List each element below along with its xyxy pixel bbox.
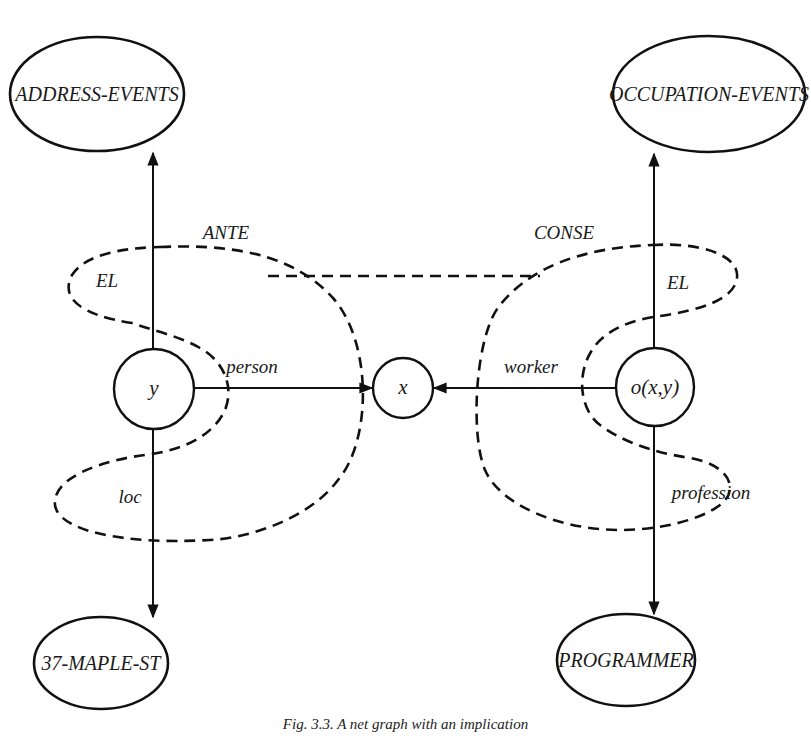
edge-loc-label: loc xyxy=(118,486,142,507)
node-y-label: y xyxy=(147,376,159,400)
conse-context-label: CONSE xyxy=(534,222,595,243)
edge-worker-label: worker xyxy=(504,356,558,377)
edge-el-left-label: EL xyxy=(95,270,118,291)
node-address-events: ADDRESS-EVENTS xyxy=(10,37,184,151)
ante-context-label: ANTE xyxy=(201,222,250,243)
node-x: x xyxy=(373,358,433,418)
node-o-xy-label: o(x,y) xyxy=(631,375,679,399)
semantic-net-diagram: ADDRESS-EVENTS OCCUPATION-EVENTS 37-MAPL… xyxy=(0,0,811,740)
node-y: y xyxy=(114,349,194,429)
node-37-maple-st-label: 37-MAPLE-ST xyxy=(41,652,163,674)
node-37-maple-st: 37-MAPLE-ST xyxy=(34,617,168,709)
node-o-xy: o(x,y) xyxy=(616,348,694,426)
edge-el-right-label: EL xyxy=(666,272,689,293)
edge-profession-label: profession xyxy=(670,482,750,503)
node-x-label: x xyxy=(397,375,408,399)
edge-person-label: person xyxy=(224,356,278,377)
figure-caption: Fig. 3.3. A net graph with an implicatio… xyxy=(0,716,811,733)
node-occupation-events: OCCUPATION-EVENTS xyxy=(609,36,809,152)
node-programmer: PROGRAMMER xyxy=(557,614,695,706)
node-occupation-events-label: OCCUPATION-EVENTS xyxy=(609,83,809,105)
node-address-events-label: ADDRESS-EVENTS xyxy=(13,83,178,105)
node-programmer-label: PROGRAMMER xyxy=(557,649,694,671)
